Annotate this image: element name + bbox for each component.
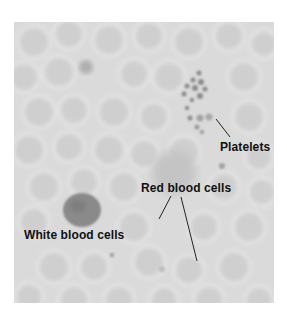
white-blood-cells-label: White blood cells [24, 228, 124, 242]
platelets-label: Platelets [220, 140, 270, 154]
blood-smear-micrograph [14, 22, 274, 303]
micrograph-texture [14, 22, 274, 303]
red-blood-cells-label: Red blood cells [141, 181, 231, 195]
